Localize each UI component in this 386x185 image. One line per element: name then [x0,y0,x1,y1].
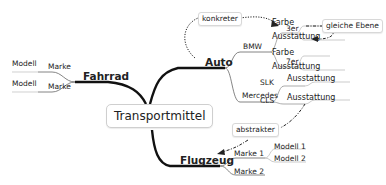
annotation-konkreter[interactable]: konkreter [198,12,242,26]
annotation-abstrakter[interactable]: abstrakter [232,123,279,137]
center-node[interactable]: Transportmittel [106,104,213,128]
3er-ausstattung[interactable]: Ausstattung [272,33,320,41]
7er-farbe[interactable]: Farbe [272,49,294,57]
fahrrad-modell-2[interactable]: Modell [12,80,37,88]
marke1-modell-2[interactable]: Modell 2 [274,155,306,163]
auto-bmw[interactable]: BMW [243,43,262,51]
branch-auto[interactable]: Auto [205,57,233,68]
mercedes-slk[interactable]: SLK [260,79,274,87]
fahrrad-marke-2[interactable]: Marke [48,83,71,91]
mercedes-cls[interactable]: CLS [260,97,274,105]
3er-farbe[interactable]: Farbe [272,19,294,27]
branch-fahrrad[interactable]: Fahrrad [83,71,129,82]
annotation-gleiche-ebene[interactable]: gleiche Ebene [322,19,383,33]
mindmap-canvas: Transportmittel Auto Fahrrad Flugzeug Ma… [0,0,386,185]
slk-ausstattung[interactable]: Ausstattung [287,75,335,83]
fahrrad-marke-1[interactable]: Marke [48,63,71,71]
flugzeug-marke-2[interactable]: Marke 2 [234,168,264,176]
flugzeug-marke-1[interactable]: Marke 1 [234,150,264,158]
cls-ausstattung[interactable]: Ausstattung [287,94,335,102]
7er-ausstattung[interactable]: Ausstattung [272,63,320,71]
marke1-modell-1[interactable]: Modell 1 [274,143,306,151]
fahrrad-modell-1[interactable]: Modell [12,60,37,68]
branch-flugzeug[interactable]: Flugzeug [180,155,234,166]
